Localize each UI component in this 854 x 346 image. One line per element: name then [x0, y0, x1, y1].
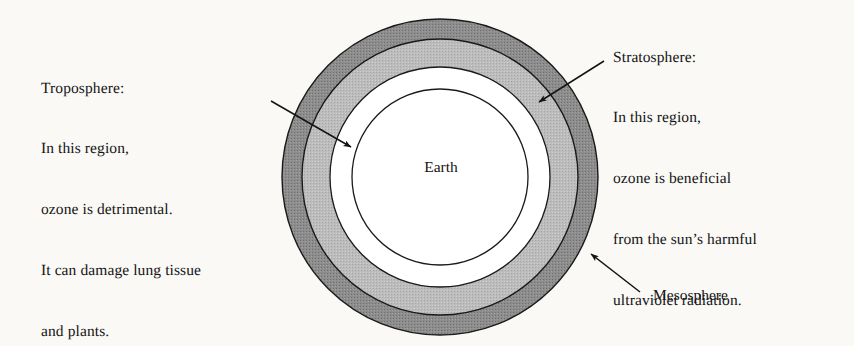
callout-troposphere-line-4: It can damage lung tissue [41, 261, 201, 281]
diagram-canvas: Troposphere: In this region, ozone is de… [0, 0, 854, 346]
callout-stratosphere-line-3: ozone is beneficial [613, 169, 757, 189]
callout-stratosphere-line-2: In this region, [613, 108, 757, 128]
callout-stratosphere-line-4: from the sun’s harmful [613, 230, 757, 250]
callout-troposphere: Troposphere: In this region, ozone is de… [41, 38, 201, 346]
callout-troposphere-line-5: and plants. [41, 322, 201, 342]
label-earth: Earth [406, 158, 476, 176]
ring-earth [352, 89, 528, 265]
callout-troposphere-line-1: Troposphere: [41, 79, 201, 99]
label-mesosphere: Mesosphere [653, 285, 728, 305]
callout-stratosphere-line-1: Stratosphere: [613, 48, 757, 68]
callout-troposphere-line-2: In this region, [41, 139, 201, 159]
callout-troposphere-line-3: ozone is detrimental. [41, 200, 201, 220]
